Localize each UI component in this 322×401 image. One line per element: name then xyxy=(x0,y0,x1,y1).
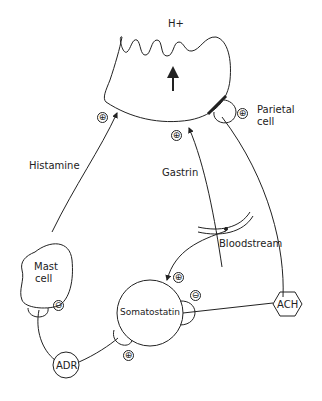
plus-sign-gastrin: ⊕ xyxy=(171,130,182,141)
plus-sign-adr: ⊕ xyxy=(123,350,134,361)
diagram-canvas: H+ Parietal cell Histamine Gastrin Blood… xyxy=(0,0,322,401)
plus-sign-gastrin-somatostatin: ⊕ xyxy=(173,272,184,283)
plus-sign-ach-parietal: ⊕ xyxy=(237,108,248,119)
gastrin-label: Gastrin xyxy=(162,167,198,178)
plus-sign-histamine: ⊕ xyxy=(97,112,108,123)
histamine-label: Histamine xyxy=(29,160,80,171)
bloodstream-label: Bloodstream xyxy=(219,238,282,249)
mast-cell-label-line1: Mast xyxy=(34,261,58,272)
diagram-lines xyxy=(0,0,322,401)
somatostatin-label: Somatostatin xyxy=(120,307,180,318)
adr-label: ADR xyxy=(56,360,78,371)
ach-label: ACH xyxy=(277,299,298,310)
parietal-label-line1: Parietal xyxy=(257,104,295,115)
minus-sign-mast: ⊖ xyxy=(53,300,64,311)
proton-label: H+ xyxy=(168,18,184,29)
parietal-label-line2: cell xyxy=(257,116,274,127)
minus-sign-ach-somatostatin: ⊖ xyxy=(190,290,201,301)
mast-cell-label-line2: cell xyxy=(35,273,52,284)
